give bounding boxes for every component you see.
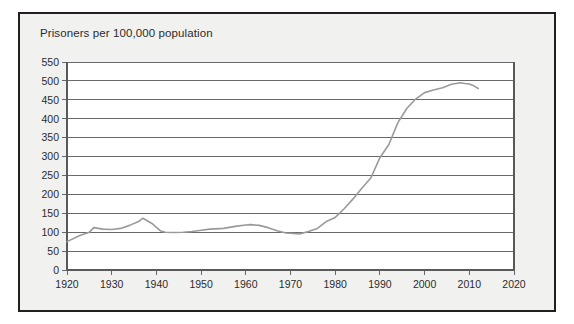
- line-chart-plot: 050100150200250300350400450500550 192019…: [20, 14, 558, 314]
- x-axis-tick-label: 2000: [413, 278, 437, 290]
- y-axis-tick-label: 550: [41, 56, 59, 68]
- y-axis-tick-label: 0: [53, 264, 59, 276]
- x-axis-tick-label: 1950: [189, 278, 213, 290]
- x-axis-ticks: 1920193019401950196019701980199020002010…: [55, 270, 526, 290]
- x-axis-tick-label: 1930: [100, 278, 124, 290]
- x-axis-tick-label: 1940: [145, 278, 169, 290]
- figure-root: Prisoners per 100,000 population 0501001…: [0, 0, 574, 324]
- y-axis-tick-label: 100: [41, 226, 59, 238]
- x-axis-tick-label: 1920: [55, 278, 79, 290]
- y-axis-tick-label: 50: [47, 245, 59, 257]
- y-axis-ticks: 050100150200250300350400450500550: [41, 56, 67, 276]
- x-axis-tick-label: 1990: [368, 278, 392, 290]
- x-axis-tick-label: 2020: [502, 278, 526, 290]
- plot-background: [67, 62, 514, 270]
- y-axis-tick-label: 400: [41, 113, 59, 125]
- y-axis-tick-label: 250: [41, 169, 59, 181]
- x-axis-tick-label: 1980: [324, 278, 348, 290]
- y-axis-tick-label: 150: [41, 207, 59, 219]
- x-axis-tick-label: 1970: [279, 278, 303, 290]
- y-axis-tick-label: 350: [41, 131, 59, 143]
- chart-panel: Prisoners per 100,000 population 0501001…: [20, 14, 554, 310]
- chart-frame: Prisoners per 100,000 population 0501001…: [18, 12, 556, 312]
- x-axis-tick-label: 1960: [234, 278, 258, 290]
- y-axis-tick-label: 450: [41, 94, 59, 106]
- y-axis-tick-label: 300: [41, 150, 59, 162]
- x-axis-tick-label: 2010: [458, 278, 482, 290]
- y-axis-tick-label: 500: [41, 75, 59, 87]
- y-axis-tick-label: 200: [41, 188, 59, 200]
